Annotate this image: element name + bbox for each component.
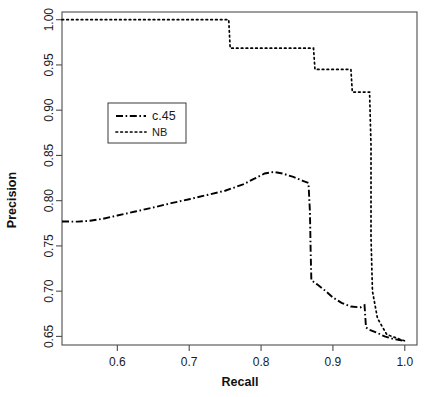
x-tick-label: 1.0 (396, 355, 413, 369)
x-axis-title: Recall (222, 375, 259, 389)
x-tick-label: 0.8 (253, 355, 270, 369)
precision-recall-chart: 0.650.700.750.800.850.900.951.00 Precisi… (0, 0, 431, 397)
y-tick-label: 0.70 (42, 279, 56, 303)
y-tick-label: 0.90 (42, 98, 56, 122)
y-axis: 0.650.700.750.800.850.900.951.00 Precisi… (5, 8, 62, 348)
x-tick-label: 0.7 (181, 355, 198, 369)
series-line-c45 (62, 172, 405, 341)
plot-frame (62, 12, 417, 345)
x-tick-label: 0.6 (109, 355, 126, 369)
y-tick-label: 0.75 (42, 234, 56, 258)
x-tickmarks (117, 345, 404, 351)
y-tickmarks (56, 20, 62, 337)
series-line-nb (62, 20, 405, 341)
data-series-layer (62, 20, 405, 341)
y-tick-label: 0.65 (42, 324, 56, 348)
chart-svg: 0.650.700.750.800.850.900.951.00 Precisi… (0, 0, 431, 397)
x-tick-labels: 0.60.70.80.91.0 (109, 355, 413, 369)
legend-label-nb: NB (152, 126, 167, 138)
y-tick-label: 1.00 (42, 8, 56, 32)
plot-border (62, 12, 417, 345)
y-axis-title: Precision (5, 172, 19, 228)
x-tick-label: 0.9 (325, 355, 342, 369)
legend-label-c45: c.45 (152, 109, 176, 123)
legend: c.45 NB (108, 103, 186, 143)
y-tick-label: 0.85 (42, 143, 56, 167)
x-axis: 0.60.70.80.91.0 Recall (109, 345, 413, 389)
y-tick-label: 0.95 (42, 53, 56, 77)
y-tick-labels: 0.650.700.750.800.850.900.951.00 (42, 8, 56, 348)
y-tick-label: 0.80 (42, 189, 56, 213)
